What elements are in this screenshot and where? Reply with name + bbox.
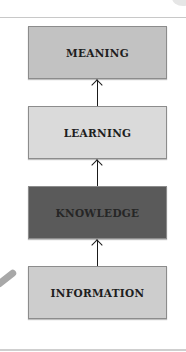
meaning-label: MEANING: [66, 47, 129, 59]
top-divider: [0, 17, 186, 18]
information-label: INFORMATION: [51, 287, 145, 299]
arrow-learning-to-meaning: [97, 80, 98, 106]
knowledge-label: KNOWLEDGE: [56, 207, 140, 219]
information-box: INFORMATION: [28, 266, 167, 319]
bottom-divider: [0, 349, 186, 351]
knowledge-box: KNOWLEDGE: [28, 186, 167, 239]
learning-label: LEARNING: [64, 127, 132, 139]
arrow-information-to-knowledge: [97, 240, 98, 266]
corner-decoration: [172, 0, 186, 6]
pencil-icon: [0, 268, 18, 288]
meaning-box: MEANING: [28, 26, 167, 79]
arrow-knowledge-to-learning: [97, 160, 98, 186]
learning-box: LEARNING: [28, 106, 167, 159]
